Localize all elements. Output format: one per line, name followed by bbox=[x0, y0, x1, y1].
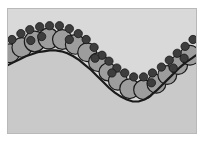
small-sphere bbox=[105, 57, 113, 65]
small-sphere bbox=[189, 35, 196, 43]
small-sphere bbox=[165, 56, 173, 64]
small-sphere bbox=[27, 36, 35, 44]
diagram-canvas bbox=[8, 9, 196, 133]
small-sphere bbox=[169, 64, 177, 72]
small-sphere bbox=[8, 35, 16, 43]
small-sphere bbox=[82, 35, 90, 43]
small-sphere bbox=[130, 73, 138, 81]
small-sphere bbox=[55, 22, 63, 30]
small-sphere bbox=[148, 69, 156, 77]
small-sphere bbox=[181, 42, 189, 50]
small-sphere bbox=[90, 43, 98, 51]
small-sphere bbox=[139, 73, 147, 81]
small-sphere bbox=[26, 26, 34, 34]
small-sphere bbox=[108, 69, 116, 77]
small-sphere bbox=[36, 23, 44, 31]
small-sphere bbox=[157, 63, 165, 71]
diagram-panel bbox=[7, 8, 197, 134]
small-sphere bbox=[74, 29, 82, 37]
small-sphere bbox=[45, 22, 53, 30]
small-sphere bbox=[65, 35, 73, 43]
figure-container bbox=[0, 0, 208, 142]
small-sphere bbox=[37, 32, 45, 40]
small-sphere bbox=[121, 69, 129, 77]
small-sphere bbox=[147, 79, 155, 87]
small-sphere bbox=[91, 54, 99, 62]
small-sphere bbox=[17, 29, 25, 37]
small-sphere bbox=[65, 25, 73, 33]
small-sphere bbox=[180, 54, 188, 62]
